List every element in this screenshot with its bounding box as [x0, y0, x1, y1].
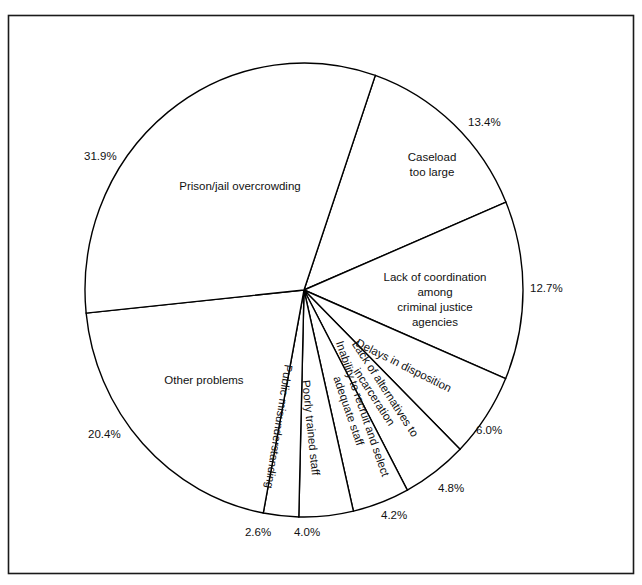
slice-label-coordination-line2: among — [417, 286, 452, 298]
percent-label-caseload: 13.4% — [468, 116, 501, 128]
percent-label-coordination: 12.7% — [530, 282, 563, 294]
slice-label-other-problems: Other problems — [164, 374, 244, 386]
percent-label-alternatives: 4.8% — [438, 482, 464, 494]
slice-label-caseload-line2: too large — [410, 166, 455, 178]
percent-label-recruit: 4.2% — [381, 509, 407, 521]
slice-label-coordination-line1: Lack of coordination — [384, 271, 487, 283]
slice-label-caseload-line1: Caseload — [408, 151, 457, 163]
slice-label-coordination-line3: criminal justice — [397, 301, 472, 313]
pie-chart-svg: Caseload too large Lack of coordination … — [0, 0, 642, 585]
slice-label-prison-overcrowding: Prison/jail overcrowding — [179, 180, 300, 192]
percent-label-delays: 6.0% — [476, 424, 502, 436]
percent-label-other-problems: 20.4% — [88, 428, 121, 440]
percent-label-public-misunderstanding: 2.6% — [245, 526, 271, 538]
percent-label-poorly-trained: 4.0% — [294, 526, 320, 538]
pie-slices-group — [85, 63, 523, 517]
percent-label-prison-overcrowding: 31.9% — [84, 150, 117, 162]
pie-chart-figure: Caseload too large Lack of coordination … — [0, 0, 642, 585]
slice-label-coordination-line4: agencies — [412, 316, 458, 328]
